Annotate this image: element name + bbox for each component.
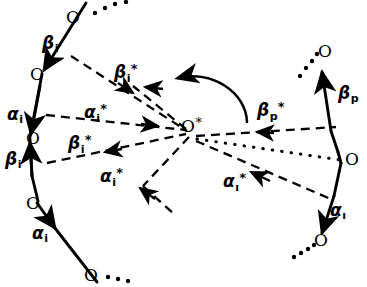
label-beta-i-left-1: βi bbox=[42, 35, 58, 54]
label-beta-i-star-lower: βi* bbox=[68, 133, 92, 155]
label-alpha-iota-right: αı bbox=[330, 202, 346, 221]
left-node-o-5: O bbox=[84, 267, 98, 284]
arrowhead-alpha-i-star-dn bbox=[145, 87, 163, 89]
ellipsis-dot bbox=[93, 11, 97, 15]
label-beta-p-star-right: βp* bbox=[257, 100, 285, 122]
left-node-o-3: O bbox=[26, 130, 40, 147]
ellipsis-dot bbox=[126, 279, 130, 283]
ellipsis-dot bbox=[113, 2, 117, 6]
arrowhead-alpha-iota-star bbox=[251, 172, 270, 181]
right-node-o-3: O bbox=[314, 232, 328, 249]
label-alpha-i-star-lower: αi* bbox=[100, 166, 123, 188]
right-node-o-2: O bbox=[345, 151, 359, 168]
ellipsis-dot bbox=[124, 0, 128, 4]
ellipsis-dot bbox=[310, 59, 314, 63]
line-alpha-i-star-lower-tail bbox=[143, 137, 189, 186]
label-beta-i-star-upper: βi* bbox=[114, 62, 138, 84]
left-node-o-2: O bbox=[30, 66, 44, 83]
ellipsis-dot bbox=[304, 66, 308, 70]
ellipsis-dot bbox=[299, 251, 303, 255]
label-alpha-i-left-1: αi bbox=[7, 106, 23, 125]
left-chain-arrow-alpha-upper bbox=[31, 86, 40, 134]
label-alpha-i-star-upper: αi* bbox=[84, 102, 107, 124]
ellipsis-dot bbox=[103, 6, 107, 10]
ellipsis-dot bbox=[298, 74, 302, 78]
label-alpha-i-left-2: αi bbox=[32, 225, 48, 244]
left-node-o-4: O bbox=[26, 195, 40, 212]
left-node-o-1: O bbox=[66, 9, 80, 26]
star-vector-arrowheads bbox=[105, 83, 274, 199]
ellipsis-dot bbox=[116, 277, 120, 281]
figure-canvas: O* O O O O O βi αi βi αi O O O βp αı βi*… bbox=[0, 0, 367, 287]
ellipsis-dot bbox=[292, 255, 296, 259]
line-alpha-i-star-lower bbox=[143, 186, 175, 215]
line-alpha-iota-star bbox=[196, 141, 333, 200]
dotted-axis-to-right-chain bbox=[197, 139, 341, 160]
arrowhead-beta-p-star bbox=[257, 132, 274, 133]
label-beta-i-left-2: βi bbox=[5, 151, 21, 170]
label-beta-p-right: βp bbox=[338, 85, 359, 104]
right-node-o-1: O bbox=[318, 43, 332, 60]
ellipsis-dot bbox=[106, 275, 110, 279]
label-alpha-iota-star-right: αı* bbox=[223, 171, 246, 193]
line-alpha-i-star-upper-tail bbox=[133, 86, 186, 129]
ellipsis-dot bbox=[306, 247, 310, 251]
center-origin-label: O* bbox=[181, 116, 202, 135]
